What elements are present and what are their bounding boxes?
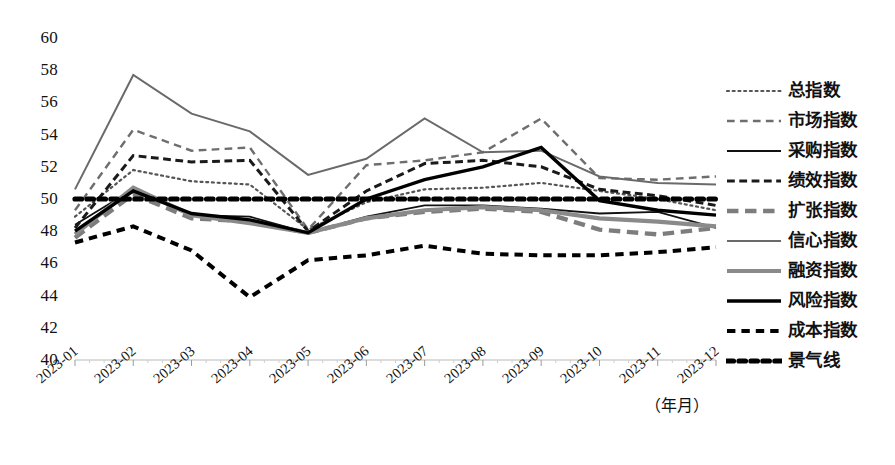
legend-swatch-icon — [726, 83, 782, 99]
legend-swatch-icon — [726, 203, 782, 219]
legend-item-8[interactable]: 成本指数 — [726, 316, 895, 346]
series-line-8 — [75, 226, 716, 297]
legend-swatch-icon — [726, 233, 782, 249]
series-line-5 — [75, 75, 716, 189]
chart-svg — [0, 0, 730, 465]
legend-item-0[interactable]: 总指数 — [726, 76, 895, 106]
legend-swatch-icon — [726, 293, 782, 309]
legend-swatch-icon — [726, 323, 782, 339]
legend-swatch-icon — [726, 263, 782, 279]
legend-item-3[interactable]: 绩效指数 — [726, 166, 895, 196]
legend-label: 市场指数 — [788, 112, 857, 130]
legend-label: 风险指数 — [788, 292, 857, 310]
y-tick-label: 44 — [22, 287, 58, 304]
y-tick-label: 60 — [22, 29, 58, 46]
x-axis-unit-label: （年月） — [645, 392, 709, 416]
legend-item-4[interactable]: 扩张指数 — [726, 196, 895, 226]
legend-swatch-icon — [726, 353, 782, 369]
y-tick-label: 52 — [22, 158, 58, 175]
legend-item-9[interactable]: 景气线 — [726, 346, 895, 376]
legend-label: 绩效指数 — [788, 172, 857, 190]
legend-label: 信心指数 — [788, 232, 857, 250]
legend-item-6[interactable]: 融资指数 — [726, 256, 895, 286]
legend-item-2[interactable]: 采购指数 — [726, 136, 895, 166]
y-tick-label: 48 — [22, 222, 58, 239]
legend-swatch-icon — [726, 173, 782, 189]
y-tick-label: 46 — [22, 254, 58, 271]
chart-legend: 总指数市场指数采购指数绩效指数扩张指数信心指数融资指数风险指数成本指数景气线 — [726, 76, 895, 376]
legend-label: 景气线 — [788, 352, 840, 370]
legend-item-7[interactable]: 风险指数 — [726, 286, 895, 316]
y-tick-label: 54 — [22, 126, 58, 143]
chart-root: 6058565452504846444240 2023-012023-02202… — [0, 0, 895, 465]
y-tick-label: 42 — [22, 319, 58, 336]
legend-swatch-icon — [726, 113, 782, 129]
y-tick-label: 50 — [22, 190, 58, 207]
y-tick-label: 58 — [22, 61, 58, 78]
legend-item-5[interactable]: 信心指数 — [726, 226, 895, 256]
legend-label: 采购指数 — [788, 142, 857, 160]
legend-swatch-icon — [726, 143, 782, 159]
y-tick-label: 56 — [22, 93, 58, 110]
legend-label: 扩张指数 — [788, 202, 857, 220]
legend-item-1[interactable]: 市场指数 — [726, 106, 895, 136]
legend-label: 总指数 — [788, 82, 840, 100]
legend-label: 融资指数 — [788, 262, 857, 280]
plot-area: 6058565452504846444240 2023-012023-02202… — [0, 0, 730, 465]
legend-label: 成本指数 — [788, 322, 857, 340]
